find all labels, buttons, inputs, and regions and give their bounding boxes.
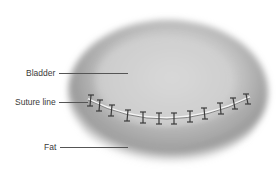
label-bladder: Bladder: [26, 68, 55, 78]
leader-line-bladder: [59, 73, 128, 74]
leader-line-suture: [59, 102, 88, 103]
label-suture-line: Suture line: [15, 97, 56, 107]
leader-line-fat: [60, 147, 128, 148]
bladder-illustration: [0, 0, 276, 175]
label-fat: Fat: [44, 142, 56, 152]
bladder-suture-diagram: Bladder Suture line Fat: [0, 0, 276, 175]
